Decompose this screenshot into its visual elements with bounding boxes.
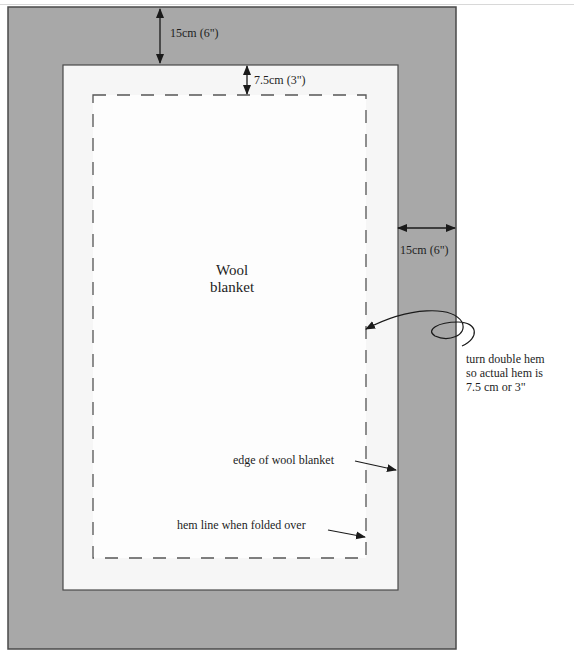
title-line-2: blanket	[190, 279, 274, 296]
side-border-label: 15cm (6")	[400, 243, 449, 257]
hem-fold-area	[93, 95, 366, 558]
hem-line-label: hem line when folded over	[177, 518, 306, 532]
note-line-2: so actual hem is	[466, 366, 543, 380]
top-hem-label: 7.5cm (3")	[254, 73, 306, 87]
note-line-1: turn double hem	[466, 352, 545, 366]
title-line-1: Wool	[190, 262, 274, 279]
blanket-diagram	[0, 0, 574, 663]
note-line-3: 7.5 cm or 3"	[466, 380, 526, 394]
edge-label: edge of wool blanket	[233, 453, 334, 467]
top-border-label: 15cm (6")	[170, 26, 219, 40]
